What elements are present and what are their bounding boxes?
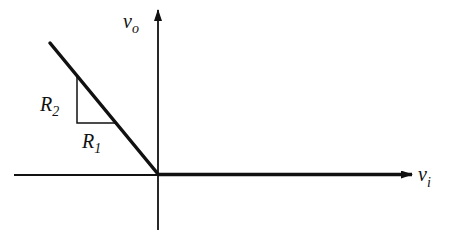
vi-axis-label: vi bbox=[418, 163, 431, 190]
r1-label: R1 bbox=[81, 130, 101, 156]
transfer-characteristic-diagram: vo vi R2 R1 bbox=[0, 0, 449, 234]
characteristic-slope-segment bbox=[50, 43, 158, 174]
vo-axis-label: vo bbox=[123, 10, 139, 36]
r2-label: R2 bbox=[39, 93, 59, 119]
